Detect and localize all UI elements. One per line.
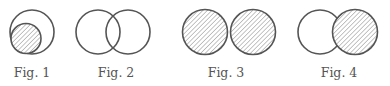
figure-3-label: Fig. 3 (208, 65, 245, 80)
venn-figures: Fig. 1 Fig. 2 Fig. 3 Fig. 4 (0, 0, 390, 86)
left-hatched-circle (183, 10, 228, 55)
figure-4: Fig. 4 (298, 10, 378, 81)
figure-1: Fig. 1 (10, 10, 54, 80)
figure-4-label: Fig. 4 (321, 65, 358, 80)
figure-3: Fig. 3 (183, 10, 276, 81)
inner-hatched-circle (11, 24, 41, 54)
right-hatched-circle (333, 10, 378, 55)
figure-1-label: Fig. 1 (14, 65, 51, 80)
right-circle (106, 10, 150, 54)
right-hatched-circle (231, 10, 276, 55)
figure-2-label: Fig. 2 (98, 65, 135, 80)
figure-2: Fig. 2 (76, 10, 150, 80)
